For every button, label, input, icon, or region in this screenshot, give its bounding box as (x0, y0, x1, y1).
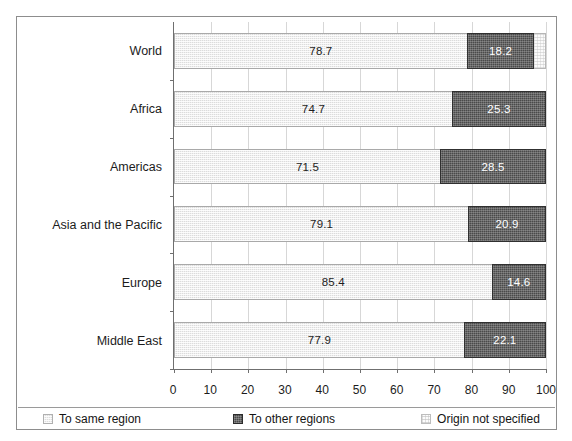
bar-value-label: 28.5 (481, 161, 504, 173)
bar-value-label: 20.9 (496, 218, 519, 230)
legend-swatch-icon (421, 414, 431, 424)
bar-segment-to-same-region[interactable]: 79.1 (174, 206, 468, 242)
chart-frame: WorldAfricaAmericasAsia and the PacificE… (16, 16, 557, 430)
category-axis-tick (170, 311, 174, 312)
x-axis-tick (509, 369, 510, 373)
bar-segment-to-same-region[interactable]: 71.5 (174, 149, 440, 185)
bar-row[interactable]: 77.922.1 (174, 322, 546, 358)
x-axis-tick (323, 369, 324, 373)
x-tick-label-40: 40 (316, 383, 329, 397)
gridline-80 (472, 22, 473, 369)
category-label-world: World (17, 22, 171, 80)
bar-segment-to-other-regions[interactable]: 22.1 (464, 322, 546, 358)
legend-separator (18, 407, 555, 408)
legend-item-origin-not-specified[interactable]: Origin not specified (421, 412, 540, 426)
x-tick-label-60: 60 (390, 383, 403, 397)
x-tick-label-10: 10 (204, 383, 217, 397)
category-axis-tick (170, 138, 174, 139)
bar-row[interactable]: 85.414.6 (174, 264, 546, 300)
category-axis: WorldAfricaAmericasAsia and the PacificE… (17, 22, 171, 370)
legend-label: To other regions (249, 412, 335, 426)
x-axis-tick (397, 369, 398, 373)
x-axis-tick (546, 369, 547, 373)
category-label-africa: Africa (17, 80, 171, 138)
bar-value-label: 78.7 (309, 45, 332, 57)
x-axis-tick (248, 369, 249, 373)
legend-label: Origin not specified (437, 412, 540, 426)
gridline-10 (211, 22, 212, 369)
x-tick-label-80: 80 (465, 383, 478, 397)
bar-value-label: 79.1 (310, 218, 333, 230)
x-axis-tick (286, 369, 287, 373)
gridline-40 (323, 22, 324, 369)
bar-segment-to-other-regions[interactable]: 25.3 (452, 91, 546, 127)
category-axis-tick (170, 253, 174, 254)
x-axis-tick (174, 369, 175, 373)
bar-row[interactable]: 79.120.9 (174, 206, 546, 242)
bar-segment-to-other-regions[interactable]: 28.5 (440, 149, 546, 185)
x-tick-label-70: 70 (427, 383, 440, 397)
chart-legend: To same regionTo other regionsOrigin not… (17, 409, 556, 429)
gridline-20 (248, 22, 249, 369)
bar-value-label: 22.1 (493, 334, 516, 346)
x-axis-tick (472, 369, 473, 373)
bar-row[interactable]: 78.718.2 (174, 33, 546, 69)
x-tick-label-100: 100 (536, 383, 556, 397)
bar-value-label: 74.7 (302, 103, 325, 115)
bar-segment-origin-not-specified[interactable] (534, 33, 546, 69)
bar-value-label: 85.4 (322, 276, 345, 288)
gridline-50 (360, 22, 361, 369)
bar-value-label: 18.2 (489, 45, 512, 57)
gridline-30 (286, 22, 287, 369)
category-label-americas: Americas (17, 138, 171, 196)
gridline-60 (397, 22, 398, 369)
bar-segment-to-same-region[interactable]: 85.4 (174, 264, 492, 300)
x-axis-tick (211, 369, 212, 373)
x-tick-label-50: 50 (353, 383, 366, 397)
bar-value-label: 77.9 (308, 334, 331, 346)
bar-segment-to-same-region[interactable]: 77.9 (174, 322, 464, 358)
x-axis-tick (360, 369, 361, 373)
legend-swatch-icon (233, 414, 243, 424)
x-axis-tick (434, 369, 435, 373)
legend-item-to-other-regions[interactable]: To other regions (233, 412, 335, 426)
bar-row[interactable]: 71.528.5 (174, 149, 546, 185)
plot-area: 78.718.274.725.371.528.579.120.985.414.6… (173, 22, 546, 370)
bar-value-label: 25.3 (487, 103, 510, 115)
x-axis-tick-labels: 0102030405060708090100 (173, 383, 546, 399)
category-label-asia-and-the-pacific: Asia and the Pacific (17, 196, 171, 254)
gridline-90 (509, 22, 510, 369)
bar-value-label: 71.5 (296, 161, 319, 173)
category-axis-tick (170, 80, 174, 81)
legend-swatch-icon (43, 414, 53, 424)
x-tick-label-0: 0 (170, 383, 177, 397)
x-tick-label-20: 20 (241, 383, 254, 397)
x-tick-label-30: 30 (278, 383, 291, 397)
figure-title-remnant (0, 0, 572, 14)
gridline-70 (434, 22, 435, 369)
category-label-europe: Europe (17, 254, 171, 312)
bar-value-label: 14.6 (507, 276, 530, 288)
x-tick-label-90: 90 (502, 383, 515, 397)
bar-segment-to-other-regions[interactable]: 18.2 (467, 33, 535, 69)
category-axis-tick (170, 196, 174, 197)
category-label-middle-east: Middle East (17, 312, 171, 370)
bar-segment-to-other-regions[interactable]: 20.9 (468, 206, 546, 242)
bar-segment-to-same-region[interactable]: 78.7 (174, 33, 467, 69)
gridline-100 (546, 22, 547, 369)
legend-label: To same region (59, 412, 141, 426)
bar-segment-to-same-region[interactable]: 74.7 (174, 91, 452, 127)
legend-item-to-same-region[interactable]: To same region (43, 412, 141, 426)
plot-wrapper: WorldAfricaAmericasAsia and the PacificE… (17, 17, 556, 377)
bar-segment-to-other-regions[interactable]: 14.6 (492, 264, 546, 300)
bar-row[interactable]: 74.725.3 (174, 91, 546, 127)
